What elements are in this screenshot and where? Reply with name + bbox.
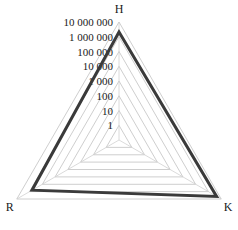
tick-label: 100 [97,90,114,102]
tick-label: 10 [102,105,114,117]
tick-label: 1 000 000 [69,31,114,43]
tick-label: 1 [108,119,114,131]
axis-label-h: H [115,2,124,16]
axis-label-k: K [224,200,233,214]
tick-label: 10 000 000 [64,16,114,28]
axis-label-r: R [6,200,14,214]
data-series [32,32,217,196]
radar-chart: 1101001 00010 000100 0001 000 00010 000 … [0,0,238,230]
series-polygon [32,32,217,196]
radar-spokes [17,22,221,199]
